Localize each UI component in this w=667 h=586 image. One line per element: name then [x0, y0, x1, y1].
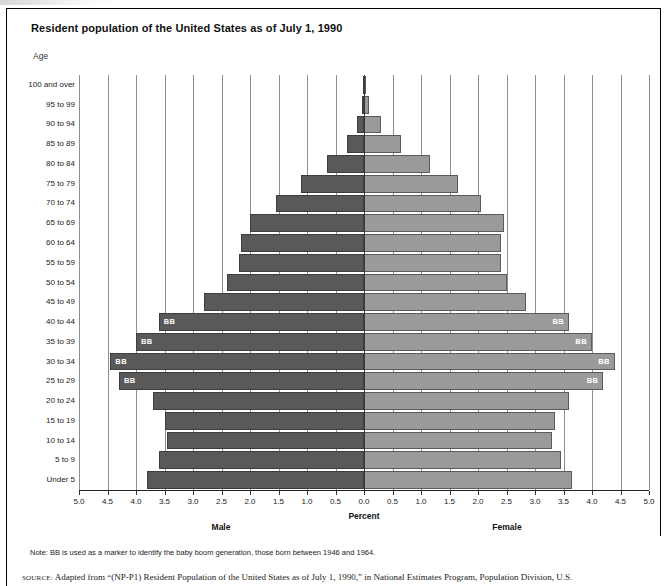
- x-tick-mark: [592, 491, 593, 495]
- y-tick-label: 55 to 59: [46, 259, 75, 267]
- x-tick-mark: [535, 491, 536, 495]
- source-text: Adapted from “(NP-P1) Resident Populatio…: [55, 572, 572, 582]
- female-bar: BB: [364, 313, 569, 331]
- male-bar: BB: [110, 353, 364, 371]
- male-bar: [204, 293, 364, 311]
- y-tick-label: 75 to 79: [46, 180, 75, 188]
- y-tick-label: 60 to 64: [46, 239, 75, 247]
- x-tick-mark: [193, 491, 194, 495]
- male-bar: [147, 471, 364, 489]
- center-axis-line: [364, 75, 365, 490]
- x-tick-label: 5.0: [643, 497, 654, 506]
- x-tick-mark: [307, 491, 308, 495]
- male-bar: [165, 412, 365, 430]
- female-bar: [364, 471, 572, 489]
- x-tick-mark: [649, 491, 650, 495]
- x-tick-label: 4.5: [102, 497, 113, 506]
- female-bar: [364, 116, 381, 134]
- baby-boom-marker: BB: [141, 338, 153, 346]
- x-tick-label: 5.0: [73, 497, 84, 506]
- x-tick-label: 3.5: [558, 497, 569, 506]
- female-bar: BB: [364, 353, 615, 371]
- baby-boom-marker: BB: [598, 358, 610, 366]
- male-bar: [159, 451, 364, 469]
- x-tick-mark: [279, 491, 280, 495]
- x-tick-mark: [222, 491, 223, 495]
- x-tick-mark: [364, 491, 365, 495]
- y-tick-label: 100 and over: [28, 81, 75, 89]
- y-axis-title: Age: [33, 51, 48, 61]
- x-tick-label: 0.5: [330, 497, 341, 506]
- figure-frame: Resident population of the United States…: [6, 8, 661, 536]
- female-bar: BB: [364, 333, 592, 351]
- female-bar: [364, 274, 507, 292]
- figure-source: SOURCE: Adapted from “(NP-P1) Resident P…: [22, 572, 572, 582]
- female-bar: BB: [364, 372, 603, 390]
- x-tick-mark: [165, 491, 166, 495]
- female-bar: [364, 155, 430, 173]
- y-tick-label: 25 to 29: [46, 377, 75, 385]
- baby-boom-marker: BB: [553, 318, 565, 326]
- female-bar: [364, 214, 504, 232]
- plot-area: BBBBBBBBBBBBBBBB: [79, 75, 649, 490]
- gridline: [649, 75, 650, 490]
- female-bar: [364, 432, 552, 450]
- x-axis-title: Percent: [348, 511, 379, 521]
- male-bar: [276, 195, 364, 213]
- y-tick-label: 40 to 44: [46, 318, 75, 326]
- page-edge-artifact: [0, 0, 120, 5]
- x-tick-label: 4.0: [586, 497, 597, 506]
- x-tick-label: 1.0: [415, 497, 426, 506]
- figure-note: Note: BB is used as a marker to identify…: [30, 548, 375, 557]
- female-bar: [364, 195, 481, 213]
- y-tick-label: 45 to 49: [46, 298, 75, 306]
- female-bar: [364, 451, 561, 469]
- x-tick-label: 2.0: [244, 497, 255, 506]
- y-tick-label: 95 to 99: [46, 101, 75, 109]
- y-tick-label: 70 to 74: [46, 199, 75, 207]
- x-tick-label: 2.5: [501, 497, 512, 506]
- female-bar: [364, 412, 555, 430]
- chart-title: Resident population of the United States…: [31, 22, 343, 34]
- male-bar: [301, 175, 364, 193]
- x-tick-label: 3.0: [529, 497, 540, 506]
- x-axis-tick-labels: 5.04.54.03.53.02.52.01.51.00.50.00.51.01…: [7, 497, 662, 511]
- y-tick-label: 15 to 19: [46, 417, 75, 425]
- y-tick-label: Under 5: [47, 476, 75, 484]
- x-tick-label: 4.0: [130, 497, 141, 506]
- male-bar: BB: [119, 372, 364, 390]
- y-tick-label: 80 to 84: [46, 160, 75, 168]
- x-tick-label: 4.5: [615, 497, 626, 506]
- male-bar: [167, 432, 364, 450]
- baby-boom-marker: BB: [575, 338, 587, 346]
- y-tick-label: 10 to 14: [46, 437, 75, 445]
- x-tick-mark: [507, 491, 508, 495]
- x-tick-label: 3.5: [159, 497, 170, 506]
- female-bar: [364, 234, 501, 252]
- x-tick-label: 2.5: [216, 497, 227, 506]
- x-tick-mark: [564, 491, 565, 495]
- x-tick-mark: [421, 491, 422, 495]
- y-tick-label: 30 to 34: [46, 358, 75, 366]
- y-tick-label: 65 to 69: [46, 219, 75, 227]
- baby-boom-marker: BB: [124, 378, 136, 386]
- male-bar: [239, 254, 364, 272]
- male-bar: [357, 116, 364, 134]
- female-side-label: Female: [492, 522, 521, 532]
- x-tick-label: 1.5: [444, 497, 455, 506]
- male-side-label: Male: [212, 522, 231, 532]
- y-tick-label: 5 to 9: [55, 456, 75, 464]
- x-tick-mark: [621, 491, 622, 495]
- female-bar: [364, 392, 569, 410]
- x-tick-mark: [136, 491, 137, 495]
- male-bar: BB: [159, 313, 364, 331]
- male-bar: [227, 274, 364, 292]
- x-tick-mark: [393, 491, 394, 495]
- y-tick-label: 85 to 89: [46, 140, 75, 148]
- y-tick-label: 90 to 94: [46, 120, 75, 128]
- male-bar: BB: [136, 333, 364, 351]
- x-tick-label: 3.0: [187, 497, 198, 506]
- male-bar: [153, 392, 364, 410]
- x-tick-mark: [478, 491, 479, 495]
- male-bar: [327, 155, 364, 173]
